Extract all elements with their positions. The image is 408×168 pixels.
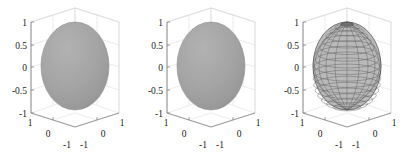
panel-1-ytick-1: 0 (46, 129, 51, 139)
sphere-surface-2 (177, 22, 245, 110)
sphere-surface-1 (41, 22, 109, 110)
panel-2-xtick-0: -1 (216, 140, 224, 150)
panel-1-xtick-0: -1 (80, 140, 88, 150)
panel-1-xtick-1: 0 (101, 129, 106, 139)
panel-3-xtick-1: 0 (373, 129, 378, 139)
panel-3-ztick-2: 0 (294, 63, 299, 73)
sphere-mesh-3 (313, 22, 381, 111)
panel-2-ztick-2: 0 (158, 63, 163, 73)
panel-1-ztick-3: -0.5 (12, 86, 27, 96)
panel-2-ztick-1: 0.5 (151, 41, 163, 51)
panel-2-xtick-2: 1 (256, 118, 261, 128)
panel-2-svg: 1 0.5 0 -0.5 -1 1 0 -1 -1 0 1 (136, 0, 272, 168)
panel-1-xtick-2: 1 (120, 118, 125, 128)
plot-panel-1[interactable]: 1 0.5 0 -0.5 -1 1 0 -1 -1 0 1 (0, 0, 136, 168)
panel-3-ytick-2: -1 (335, 140, 343, 150)
panel-1-ztick-0: 1 (22, 18, 27, 28)
panel-1-ytick-0: 1 (28, 118, 33, 128)
panel-2-ztick-3: -0.5 (148, 86, 163, 96)
panel-3-ztick-4: -1 (291, 109, 299, 119)
panel-2-ztick-4: -1 (155, 109, 163, 119)
panel-3-ytick-1: 0 (318, 129, 323, 139)
plot-panel-3[interactable]: 1 0.5 0 -0.5 -1 1 0 -1 -1 0 1 (272, 0, 408, 168)
panel-1-ztick-1: 0.5 (15, 41, 27, 51)
panel-1-ytick-2: -1 (63, 140, 71, 150)
panel-3-ztick-3: -0.5 (284, 86, 299, 96)
panel-2-ytick-0: 1 (164, 118, 169, 128)
panel-1-svg: 1 0.5 0 -0.5 -1 1 0 -1 -1 0 1 (0, 0, 136, 168)
plot-panel-2[interactable]: 1 0.5 0 -0.5 -1 1 0 -1 -1 0 1 (136, 0, 272, 168)
panel-3-ztick-1: 0.5 (287, 41, 299, 51)
panel-2-ytick-2: -1 (199, 140, 207, 150)
panel-2-ytick-1: 0 (182, 129, 187, 139)
panel-3-svg: 1 0.5 0 -0.5 -1 1 0 -1 -1 0 1 (272, 0, 408, 168)
figure-canvas: 1 0.5 0 -0.5 -1 1 0 -1 -1 0 1 (0, 0, 408, 168)
panel-3-ztick-0: 1 (294, 18, 299, 28)
panel-1-ztick-2: 0 (22, 63, 27, 73)
panel-3-xtick-0: -1 (352, 140, 360, 150)
panel-1-ztick-4: -1 (19, 109, 27, 119)
panel-3-xtick-2: 1 (392, 118, 397, 128)
panel-2-xtick-1: 0 (237, 129, 242, 139)
panel-3-ytick-0: 1 (300, 118, 305, 128)
panel-2-ztick-0: 1 (158, 18, 163, 28)
